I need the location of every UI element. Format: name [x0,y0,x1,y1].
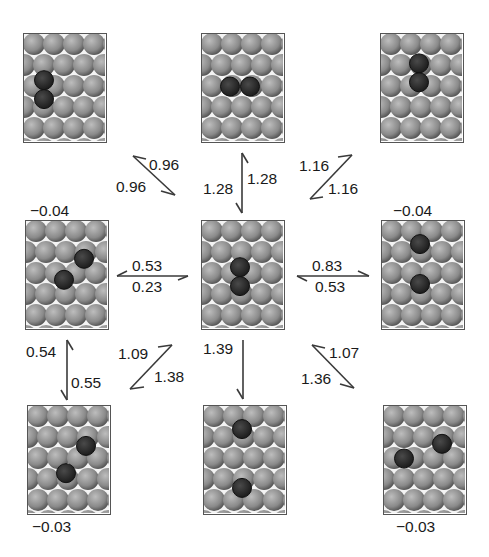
adsorbate-atom [233,420,252,439]
barrier-label: 0.23 [132,279,162,295]
adsorbate-atom [77,436,96,455]
barrier-label: 0.53 [132,258,162,274]
barrier-label: 1.16 [328,181,358,197]
panel-bottom-center [203,405,287,515]
barrier-label: 1.09 [118,346,148,362]
adsorbate-atom [433,434,452,453]
adsorbate-atom [75,249,94,268]
adsorbate-atom [221,77,240,96]
barrier-label: 1.38 [154,369,184,385]
panel-top-right [380,33,464,143]
adsorbate-atom [410,54,429,73]
barrier-label: 1.36 [301,371,331,387]
half-arrowhead [61,390,67,400]
barrier-label: 1.16 [299,158,329,174]
panel-top-left [23,33,107,143]
barrier-label: 0.83 [312,258,342,274]
adsorbate-atom [35,90,54,109]
panel-middle-left [25,220,109,330]
adsorbate-atom [410,73,429,92]
panel-middle-right [381,220,465,330]
energy-label-bottom-right: −0.03 [396,519,435,535]
adsorbate-atom [55,270,74,289]
adsorbate-atom [411,275,430,294]
panel-middle-center [201,220,285,330]
energy-label-middle-right: −0.04 [393,203,432,219]
barrier-label: 0.54 [26,344,56,360]
barrier-label: 1.07 [329,345,359,361]
barrier-label: 0.96 [149,157,179,173]
panel-top-center [201,33,285,143]
barrier-label: 0.53 [315,279,345,295]
barrier-label: 1.28 [203,181,233,197]
barrier-label: 1.39 [203,341,233,357]
adsorbate-atom [241,77,260,96]
adsorbate-atom [233,478,252,497]
half-arrowhead [242,153,248,163]
adsorbate-atom [35,71,54,90]
panel-bottom-left [27,405,111,515]
barrier-label: 1.28 [247,171,277,187]
adsorbate-atom [231,277,250,296]
panel-bottom-right [383,405,467,515]
adsorbate-atom [231,258,250,277]
adsorbate-atom [57,464,76,483]
barrier-label: 0.96 [116,179,146,195]
energy-label-middle-left: −0.04 [30,203,69,219]
half-arrowhead [236,203,242,213]
energy-label-bottom-left: −0.03 [32,519,71,535]
adsorbate-atom [411,235,430,254]
barrier-label: 0.55 [71,375,101,391]
adsorbate-atom [395,449,414,468]
half-arrowhead [67,340,73,350]
half-arrowhead [237,389,243,399]
